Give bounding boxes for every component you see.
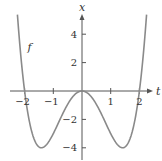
ytick-label: −4	[62, 142, 77, 153]
x-axis-label: x	[79, 1, 86, 14]
ytick-label: −2	[62, 114, 77, 125]
ytick-label: 4	[71, 29, 77, 40]
xtick-label: 2	[136, 96, 142, 107]
t-axis-arrow-icon	[147, 89, 153, 94]
curve-label: f	[26, 41, 33, 54]
ytick-label: 2	[71, 57, 77, 68]
axes	[10, 14, 153, 160]
t-axis-label: t	[156, 85, 161, 98]
chart: −2−11242−2−4txf	[0, 0, 162, 161]
xtick-label: −1	[44, 96, 59, 107]
x-axis-arrow-icon	[80, 14, 85, 20]
xtick-label: −2	[15, 96, 30, 107]
labels: −2−11242−2−4txf	[15, 1, 161, 153]
xtick-label: 1	[108, 96, 114, 107]
